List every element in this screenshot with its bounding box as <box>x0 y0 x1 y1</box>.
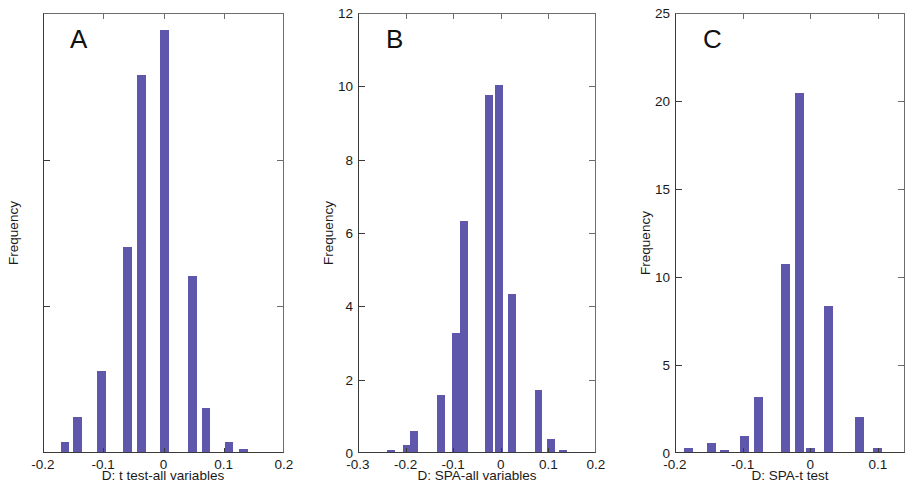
histogram-bar <box>684 448 693 452</box>
x-axis-tick-mark-top <box>810 14 811 19</box>
figure-histogram-triptych: A 051015 -0.2-0.100.10.2 D: t test-all v… <box>0 0 912 493</box>
y-axis-tick-label: 15 <box>655 182 670 197</box>
panel-letter-c: C <box>703 24 722 55</box>
panel-c: C 0510152025 -0.2-0.100.1 D: SPA-t test … <box>0 0 912 493</box>
histogram-bar <box>720 450 729 452</box>
histogram-bar <box>824 306 833 452</box>
y-axis-tick-mark <box>676 101 682 102</box>
x-axis-tick-mark-top <box>743 14 744 19</box>
histogram-bar <box>740 436 749 452</box>
x-axis-tick-mark <box>878 448 879 453</box>
plot-area-c <box>675 13 905 453</box>
y-axis-tick-mark <box>676 189 682 190</box>
y-axis-tick-mark-right <box>898 101 904 102</box>
x-axis-tick-mark-top <box>878 14 879 19</box>
y-axis-tick-mark <box>676 277 682 278</box>
histogram-bar <box>781 264 790 452</box>
histogram-bar <box>795 93 804 452</box>
y-axis-tick-mark-right <box>898 277 904 278</box>
histogram-bar <box>707 443 716 452</box>
x-axis-title-c: D: SPA-t test <box>751 468 828 483</box>
y-axis-tick-mark-right <box>898 189 904 190</box>
y-axis-title-c: Frequency <box>638 211 653 275</box>
bars-container-c <box>676 14 904 452</box>
y-axis-tick-label: 10 <box>655 270 670 285</box>
x-axis-tick-label: 0.1 <box>869 457 888 472</box>
y-axis-tick-mark-right <box>898 365 904 366</box>
histogram-bar <box>754 397 763 452</box>
y-axis-tick-mark <box>676 365 682 366</box>
y-axis-tick-label: 25 <box>655 6 670 21</box>
x-axis-tick-mark <box>743 448 744 453</box>
y-axis-tick-label: 5 <box>662 358 670 373</box>
y-axis-tick-label: 20 <box>655 94 670 109</box>
histogram-bar <box>855 417 864 452</box>
x-axis-tick-label: -0.2 <box>663 457 686 472</box>
x-axis-tick-mark <box>810 448 811 453</box>
